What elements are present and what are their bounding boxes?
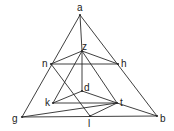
graph-diagram: aznhdktglb (0, 0, 174, 131)
vertex-k (52, 102, 54, 104)
vertex-label-g: g (12, 113, 18, 124)
vertex-a (79, 14, 81, 16)
vertex-label-h: h (121, 58, 127, 69)
vertex-h (117, 63, 119, 65)
vertex-label-d: d (84, 82, 90, 93)
vertex-n (50, 63, 52, 65)
edge-d-k (53, 91, 82, 103)
edge-a-g (22, 15, 80, 117)
vertex-label-k: k (45, 97, 51, 108)
vertex-l (89, 115, 91, 117)
edge-t-b (117, 103, 157, 116)
vertex-g (21, 116, 23, 118)
vertex-label-a: a (77, 2, 83, 13)
vertex-label-n: n (42, 58, 48, 69)
edge-z-t (82, 51, 117, 103)
vertices-group: aznhdktglb (12, 2, 166, 129)
vertex-d (81, 90, 83, 92)
vertex-label-b: b (160, 113, 166, 124)
vertex-b (156, 115, 158, 117)
vertex-label-z: z (82, 41, 87, 52)
vertex-label-t: t (120, 97, 123, 108)
edge-z-k (53, 51, 82, 103)
vertex-t (116, 102, 118, 104)
vertex-label-l: l (88, 118, 90, 129)
